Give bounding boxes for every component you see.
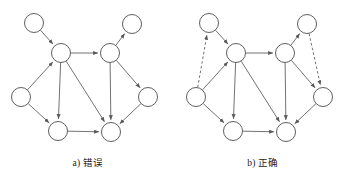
node-circle-n4: [276, 44, 295, 63]
node-circle-n7: [49, 122, 68, 141]
edge-n7-to-n8: [68, 131, 99, 132]
edge-n7-to-n8: [243, 131, 274, 132]
node-circle-n4: [101, 44, 120, 63]
node-circle-n6: [139, 88, 158, 107]
node-circle-n5: [12, 88, 31, 107]
caption-panel-b: b) 正确: [175, 155, 351, 169]
edge-n6-to-n8: [295, 104, 316, 124]
edge-n3-to-n8: [66, 61, 104, 122]
edge-n1-to-n3: [216, 30, 228, 44]
edge-n3-to-n7: [233, 63, 235, 119]
edge-n5-to-n3: [203, 62, 228, 90]
node-circle-n8: [102, 123, 121, 142]
node-circle-n3: [227, 44, 246, 63]
edge-n5-to-n7: [203, 104, 224, 123]
graph-node-n5[interactable]: [187, 88, 206, 107]
edge-n4-to-n2: [291, 34, 300, 46]
node-group-b: [187, 14, 333, 142]
graph-node-n4[interactable]: [276, 44, 295, 63]
node-circle-n3: [52, 44, 71, 63]
edge-n3-to-n8: [241, 61, 279, 122]
node-circle-n1: [25, 14, 44, 33]
node-circle-n6: [314, 88, 333, 107]
node-circle-n8: [277, 123, 296, 142]
edge-n4-to-n6: [116, 60, 140, 87]
graph-node-n7[interactable]: [49, 122, 68, 141]
node-circle-n2: [123, 15, 142, 34]
graph-node-n7[interactable]: [224, 122, 243, 141]
edge-n5-to-n7: [28, 104, 49, 123]
graph-node-n2[interactable]: [123, 15, 142, 34]
edge-n4-to-n6: [291, 60, 315, 87]
graph-node-n3[interactable]: [227, 44, 246, 63]
graph-node-n1[interactable]: [200, 14, 219, 33]
edge-n5-to-n1-dashed: [198, 35, 207, 87]
graph-node-n8[interactable]: [277, 123, 296, 142]
edge-n1-to-n3: [41, 30, 53, 44]
graph-node-n8[interactable]: [102, 123, 121, 142]
caption-panel-a: a) 错误: [0, 155, 176, 169]
node-circle-n2: [298, 15, 317, 34]
graph-node-n6[interactable]: [139, 88, 158, 107]
graph-node-n6[interactable]: [314, 88, 333, 107]
edge-n2-to-n6-dashed: [309, 34, 320, 86]
edge-n4-to-n8: [110, 63, 111, 120]
node-group-a: [12, 14, 158, 142]
node-circle-n5: [187, 88, 206, 107]
graph-node-n3[interactable]: [52, 44, 71, 63]
graph-node-n1[interactable]: [25, 14, 44, 33]
figure-container: a) 错误 b) 正确: [0, 0, 351, 182]
edge-n5-to-n3: [28, 62, 53, 90]
graph-node-n5[interactable]: [12, 88, 31, 107]
graph-node-n4[interactable]: [101, 44, 120, 63]
edge-n4-to-n8: [285, 63, 286, 120]
edge-group-a: [28, 30, 141, 131]
edge-n4-to-n2: [116, 34, 125, 46]
node-circle-n7: [224, 122, 243, 141]
edge-n3-to-n7: [58, 63, 60, 119]
edge-group-b: [198, 30, 321, 131]
node-circle-n1: [200, 14, 219, 33]
graph-node-n2[interactable]: [298, 15, 317, 34]
edge-n6-to-n8: [120, 104, 141, 124]
